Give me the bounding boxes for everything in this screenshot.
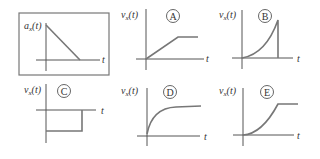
option-d-panel[interactable]: vx(t) D t (121, 85, 207, 146)
option-b-curve (242, 20, 278, 58)
option-a-t-label: t (206, 53, 209, 64)
option-e-y-label: vx(t) (219, 85, 237, 98)
option-a-panel[interactable]: vx(t) A t (121, 9, 209, 70)
option-d-t-label: t (204, 131, 207, 142)
option-e-curve (243, 104, 298, 135)
option-b-panel[interactable]: vx(t) B t (219, 9, 300, 69)
given-t-label: t (102, 54, 105, 65)
option-b-y-label: vx(t) (219, 9, 237, 22)
given-curve (46, 25, 80, 60)
option-c-letter: C (61, 86, 68, 97)
option-a-curve (146, 37, 198, 59)
option-b-letter: B (262, 11, 269, 22)
option-c-t-label: t (101, 105, 104, 116)
option-d-curve (147, 106, 201, 134)
option-e-t-label: t (297, 130, 300, 141)
option-c-y-label: vx(t) (24, 84, 42, 97)
given-panel: ax(t) t (19, 13, 109, 75)
option-e-panel[interactable]: vx(t) E t (219, 85, 300, 146)
option-d-y-label: vx(t) (121, 85, 139, 98)
option-e-letter: E (264, 87, 270, 98)
option-a-letter: A (169, 11, 177, 22)
given-y-label: ax(t) (24, 20, 42, 33)
option-d-letter: D (166, 87, 173, 98)
option-c-panel[interactable]: vx(t) C t (24, 84, 104, 143)
option-b-t-label: t (297, 53, 300, 64)
option-c-curve (46, 110, 82, 131)
motion-graphs-figure: ax(t) t vx(t) A t vx(t) B t vx(t) C t vx… (0, 0, 320, 159)
option-a-y-label: vx(t) (121, 9, 139, 22)
